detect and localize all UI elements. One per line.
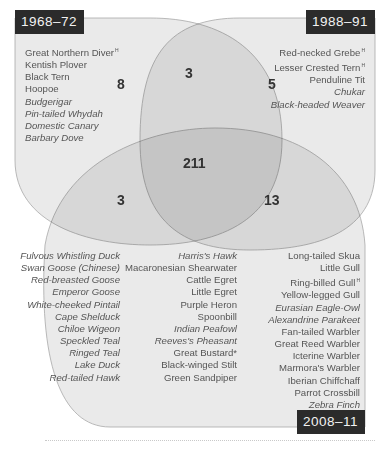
species-name: Icterine Warbler: [293, 350, 360, 361]
species-name: Budgerigar: [25, 96, 72, 107]
species-name: Reeves's Pheasant: [155, 335, 237, 346]
species-item: Black-headed Weaver: [271, 99, 365, 111]
species-name: Great Bustard*: [174, 347, 237, 358]
species-name: Ringed Teal: [69, 347, 120, 358]
species-name: Little Gull: [320, 262, 360, 273]
species-name: Alexandrine Parakeet: [268, 314, 360, 325]
species-name: Purple Heron: [180, 299, 237, 310]
species-item: Green Sandpiper: [125, 372, 237, 384]
count-all-three: 211: [183, 155, 206, 171]
species-item: Speckled Teal: [20, 335, 120, 347]
species-name: Black Tern: [25, 71, 70, 82]
species-list-1988-91: Red-necked GrebeHLesser Crested TernHPen…: [271, 44, 365, 111]
species-item: Zebra Finch: [268, 399, 360, 411]
species-item: Barbary Dove: [25, 132, 119, 144]
species-name: Cape Shelduck: [55, 311, 120, 322]
divider-line: [45, 440, 375, 441]
species-name: Barbary Dove: [25, 132, 84, 143]
count-bc-only: 13: [264, 192, 280, 208]
species-name: Penduline Tit: [310, 74, 365, 85]
count-ab-only: 3: [185, 65, 193, 81]
species-item: Little Egret: [125, 286, 237, 298]
species-item: Parrot Crossbill: [268, 387, 360, 399]
species-name: Red-necked Grebe: [279, 47, 360, 58]
species-name: Marmora's Warbler: [279, 362, 360, 373]
species-item: Great Northern DiverH: [25, 44, 119, 59]
footnote-mark: H: [356, 277, 360, 283]
species-name: Iberian Chiffchaff: [288, 375, 360, 386]
species-item: Great Reed Warbler: [268, 338, 360, 350]
species-name: Ring-billed Gull: [290, 277, 355, 288]
species-name: Kentish Plover: [25, 59, 87, 70]
species-item: Kentish Plover: [25, 59, 119, 71]
species-name: Macaronesian Shearwater: [125, 262, 237, 273]
species-item: Spoonbill: [125, 311, 237, 323]
species-item: Penduline Tit: [271, 74, 365, 86]
species-name: Parrot Crossbill: [294, 387, 360, 398]
species-item: Hoopoe: [25, 83, 119, 95]
species-name: Black-headed Weaver: [271, 99, 365, 110]
species-item: Cattle Egret: [125, 274, 237, 286]
species-item: Purple Heron: [125, 299, 237, 311]
species-item: Iberian Chiffchaff: [268, 375, 360, 387]
species-name: Speckled Teal: [60, 335, 120, 346]
species-name: Chiloe Wigeon: [58, 323, 120, 334]
species-name: Red-breasted Goose: [31, 274, 120, 285]
species-item: Lake Duck: [20, 359, 120, 371]
species-name: Red-tailed Hawk: [50, 372, 120, 383]
species-name: Spoonbill: [198, 311, 237, 322]
species-name: Lesser Crested Tern: [274, 62, 360, 73]
set-label-1988-91: 1988–91: [306, 10, 375, 34]
species-item: Ring-billed GullH: [268, 274, 360, 289]
species-name: White-cheeked Pintail: [27, 299, 120, 310]
species-item: Red-breasted Goose: [20, 274, 120, 286]
species-name: Lake Duck: [75, 359, 120, 370]
species-name: Long-tailed Skua: [288, 250, 360, 261]
count-1988-91-only: 5: [268, 76, 276, 92]
set-label-1968-72: 1968–72: [15, 10, 84, 34]
species-item: Macaronesian Shearwater: [125, 262, 237, 274]
species-item: Pin-tailed Whydah: [25, 108, 119, 120]
species-item: Marmora's Warbler: [268, 362, 360, 374]
species-item: Fan-tailed Warbler: [268, 326, 360, 338]
species-item: Long-tailed Skua: [268, 250, 360, 262]
species-name: Yellow-legged Gull: [281, 289, 360, 300]
species-item: Alexandrine Parakeet: [268, 314, 360, 326]
species-name: Green Sandpiper: [164, 372, 237, 383]
species-list-2008-11-col1: Fulvous Whistling DuckSwan Goose (Chines…: [20, 250, 120, 384]
species-item: Reeves's Pheasant: [125, 335, 237, 347]
count-ac-only: 3: [117, 192, 125, 208]
species-item: Chiloe Wigeon: [20, 323, 120, 335]
species-name: Fulvous Whistling Duck: [20, 250, 120, 261]
count-1968-72-only: 8: [117, 76, 125, 92]
footnote-mark: H: [115, 47, 119, 53]
species-item: Chukar: [271, 86, 365, 98]
species-item: Eurasian Eagle-Owl: [268, 302, 360, 314]
species-name: Cattle Egret: [186, 274, 237, 285]
species-item: Black Tern: [25, 71, 119, 83]
species-item: Ringed Teal: [20, 347, 120, 359]
species-item: Red-tailed Hawk: [20, 372, 120, 384]
species-item: Red-necked GrebeH: [271, 44, 365, 59]
species-name: Great Northern Diver: [25, 47, 114, 58]
species-item: Great Bustard*: [125, 347, 237, 359]
species-name: Pin-tailed Whydah: [25, 108, 103, 119]
species-name: Great Reed Warbler: [275, 338, 361, 349]
species-name: Black-winged Stilt: [161, 359, 237, 370]
species-item: White-cheeked Pintail: [20, 299, 120, 311]
species-item: Yellow-legged Gull: [268, 289, 360, 301]
species-name: Hoopoe: [25, 83, 59, 94]
species-name: Fan-tailed Warbler: [281, 326, 360, 337]
species-item: Indian Peafowl: [125, 323, 237, 335]
species-item: Swan Goose (Chinese): [20, 262, 120, 274]
species-list-1968-72: Great Northern DiverHKentish PloverBlack…: [25, 44, 119, 144]
species-item: Black-winged Stilt: [125, 359, 237, 371]
set-label-2008-11: 2008–11: [297, 410, 365, 434]
species-name: Chukar: [334, 86, 365, 97]
species-item: Icterine Warbler: [268, 350, 360, 362]
species-name: Domestic Canary: [25, 120, 99, 131]
species-item: Harris's Hawk: [125, 250, 237, 262]
species-item: Lesser Crested TernH: [271, 59, 365, 74]
species-name: Zebra Finch: [309, 399, 360, 410]
species-name: Little Egret: [191, 286, 237, 297]
